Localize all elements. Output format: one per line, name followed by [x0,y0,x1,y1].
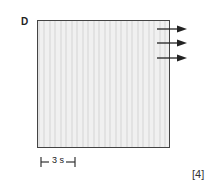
arrow-right-icon [157,25,187,33]
panel-label: D [21,16,28,27]
arrow-right-icon [157,39,187,47]
stripe-panel [37,20,170,148]
scale-bar-label: 3 s [52,155,64,165]
arrow-right-icon [157,54,187,62]
marks-label: [4] [192,168,204,180]
